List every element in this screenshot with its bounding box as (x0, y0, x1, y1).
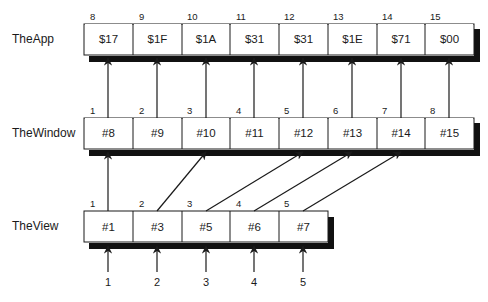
input-number: 4 (244, 276, 264, 288)
cell-index: 5 (284, 105, 289, 116)
cell-index: 10 (187, 11, 198, 22)
array-cell: #5 (183, 212, 229, 241)
cell-index: 11 (236, 11, 246, 22)
input-arrows (108, 246, 303, 272)
array-cell: $1E (329, 24, 376, 54)
input-number: 5 (293, 276, 313, 288)
theview-shadow (89, 243, 334, 249)
input-number: 3 (196, 276, 216, 288)
cell-index: 5 (284, 198, 289, 209)
array-cell: #13 (329, 118, 376, 148)
array-cell: #9 (134, 118, 181, 148)
array-cell: #11 (231, 118, 278, 148)
array-cell: #12 (280, 118, 327, 148)
cell-index: 3 (187, 198, 192, 209)
cell-index: 13 (333, 11, 344, 22)
array-cell: #3 (134, 212, 181, 241)
row-label-theapp: TheApp (12, 32, 54, 46)
cell-index: 2 (139, 198, 144, 209)
array-cell: $1A (183, 24, 229, 54)
array-cell: #7 (280, 212, 327, 241)
array-cell: #6 (231, 212, 278, 241)
cell-index: 1 (90, 105, 95, 116)
array-cell: #14 (378, 118, 424, 148)
array-cell: #10 (183, 118, 229, 148)
window-to-app-arrows (108, 58, 449, 118)
theapp-shadow (89, 56, 480, 62)
view-to-window-arrows (108, 152, 401, 211)
row-label-theview: TheView (12, 219, 58, 233)
array-cell: #1 (85, 212, 132, 241)
thewindow-shadow (89, 150, 480, 156)
cell-index: 12 (284, 11, 295, 22)
row-label-thewindow: TheWindow (12, 126, 75, 140)
array-cell: #8 (85, 118, 132, 148)
cell-index: 15 (430, 11, 441, 22)
array-cell: $1F (134, 24, 181, 54)
cell-index: 4 (236, 198, 241, 209)
cell-index: 3 (187, 105, 192, 116)
array-cell: $17 (85, 24, 132, 54)
cell-index: 7 (382, 105, 387, 116)
array-cell: $00 (426, 24, 473, 54)
input-number: 1 (98, 276, 118, 288)
cell-index: 14 (382, 11, 393, 22)
cell-index: 4 (236, 105, 241, 116)
cell-index: 9 (139, 11, 144, 22)
cell-index: 8 (430, 105, 435, 116)
cell-index: 2 (139, 105, 144, 116)
cell-index: 8 (90, 11, 95, 22)
input-number: 2 (147, 276, 167, 288)
array-cell: #15 (426, 118, 473, 148)
cell-index: 1 (90, 198, 95, 209)
array-cell: $71 (378, 24, 424, 54)
cell-index: 6 (333, 105, 338, 116)
array-cell: $31 (231, 24, 278, 54)
array-cell: $31 (280, 24, 327, 54)
